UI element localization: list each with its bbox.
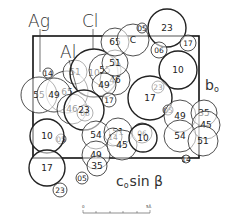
atom-height-label: 54 — [174, 131, 186, 141]
atom-height-label: 17 — [183, 39, 193, 48]
atom-height-label: 51 — [109, 58, 120, 68]
atom-height-label: 51 — [197, 136, 208, 146]
atom: 10 — [30, 119, 64, 153]
atom: 51 — [188, 126, 218, 156]
crystal-structure-diagram: 655549465114105546495165C052317061023170… — [0, 0, 232, 224]
atom-height-label: 49 — [48, 90, 60, 100]
atom-height-label: 35 — [91, 161, 102, 171]
atom: 14 — [181, 155, 191, 164]
atom-height-label: 14 — [43, 69, 53, 78]
atom-height-label: 23 — [55, 186, 65, 195]
scale-start-label: 0 — [82, 204, 85, 209]
atom: 10 — [129, 124, 157, 152]
atom-height-label: 14 — [181, 155, 191, 164]
atom-height-label: 17 — [144, 93, 155, 103]
atom-height-label: 17 — [104, 96, 114, 105]
atom-height-label: 05 — [137, 24, 147, 33]
atom-height-label: 49 — [98, 80, 110, 90]
label-cl: Cl — [82, 11, 99, 31]
axis-label-c-sin-beta: cosin β — [116, 173, 163, 190]
atom-height-label: 10 — [137, 133, 149, 143]
atom: 05 — [137, 23, 147, 33]
atom: 05 — [76, 172, 88, 184]
atom-height-label: 23 — [161, 23, 172, 33]
atom-height-label: C — [130, 35, 136, 45]
atom-height-label: 10 — [172, 65, 184, 75]
atom-layer: 655549465114105546495165C052317061023170… — [21, 9, 220, 197]
atom: 17 — [29, 150, 65, 186]
atom-height-label: 54 — [90, 130, 102, 140]
scale-end-label: 5Å — [146, 204, 152, 209]
atom: 23 — [53, 183, 67, 197]
atom-height-label: 45 — [116, 140, 127, 150]
atom: 35 — [87, 156, 107, 176]
axis-label-b: bo — [205, 77, 219, 94]
atom-height-label: 17 — [41, 163, 52, 173]
label-al: Al — [60, 42, 76, 62]
atom-height-label: 06 — [154, 46, 164, 55]
atom-height-label: 49 — [174, 111, 186, 121]
atom-height-label: 05 — [77, 174, 87, 183]
atom-height-label: 10 — [41, 131, 53, 141]
scale-bar: 0 5Å — [82, 204, 152, 213]
atom: 14 — [43, 68, 53, 78]
label-ag: Ag — [28, 11, 50, 31]
atom: 17 — [180, 35, 196, 51]
atom: 17 — [102, 93, 116, 107]
atom-height-label: 23 — [78, 105, 89, 115]
